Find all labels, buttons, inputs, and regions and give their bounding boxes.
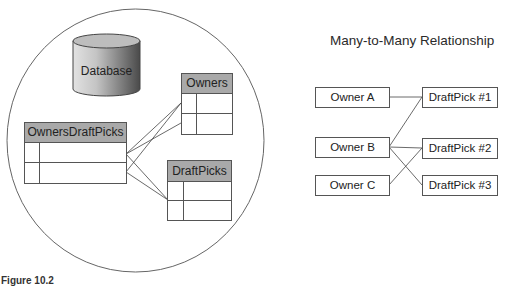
key-column	[196, 114, 197, 134]
draftpick-box-3: DraftPick #3	[422, 175, 498, 196]
table-header: OwnersDraftPicks	[25, 123, 126, 143]
key-column	[183, 201, 184, 220]
table-row	[168, 182, 231, 201]
key-column	[183, 182, 184, 200]
right-relationship-lines	[389, 97, 422, 185]
table-header: Owners	[182, 74, 232, 94]
database-label: Database	[73, 64, 140, 78]
draftpick-box-2: DraftPick #2	[422, 138, 498, 159]
key-column	[39, 163, 40, 183]
table-row	[25, 143, 126, 163]
owner-box-c: Owner C	[315, 175, 390, 196]
owner-box-a: Owner A	[315, 87, 390, 108]
key-column	[39, 143, 40, 162]
diagram-title: Many-to-Many Relationship	[330, 33, 494, 48]
owner-box-b: Owner B	[315, 137, 390, 158]
table-header: DraftPicks	[168, 161, 231, 182]
table-row	[168, 201, 231, 220]
table-row	[182, 114, 232, 134]
table-draft-picks: DraftPicks	[167, 160, 232, 221]
figure-caption: Figure 10.2	[1, 275, 54, 286]
table-row	[25, 163, 126, 183]
table-row	[182, 94, 232, 114]
key-column	[196, 94, 197, 113]
table-owners: Owners	[181, 73, 233, 135]
table-owners-draft-picks: OwnersDraftPicks	[24, 122, 127, 184]
draftpick-box-1: DraftPick #1	[422, 87, 498, 108]
